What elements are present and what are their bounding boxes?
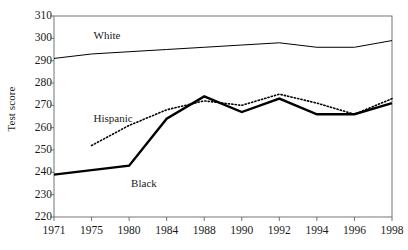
series-line-white <box>54 41 392 59</box>
plot-area <box>0 0 408 250</box>
data-series-group <box>54 41 392 175</box>
series-annotation-white: White <box>94 30 121 41</box>
chart-figure: Test score 22023024025026027028029030031… <box>0 0 408 250</box>
series-line-hispanic <box>92 94 392 145</box>
series-annotation-black: Black <box>131 178 157 189</box>
series-annotation-hispanic: Hispanic <box>94 113 133 124</box>
series-line-black <box>54 96 392 174</box>
